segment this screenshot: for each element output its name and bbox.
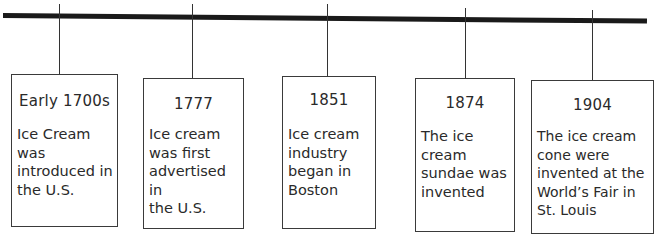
event-year: 1874 [416, 94, 514, 112]
connector-line [465, 8, 466, 78]
event-description: The ice cream sundae was invented [421, 127, 512, 201]
event-year: Early 1700s [12, 92, 117, 110]
timeline-event-box: Early 1700s Ice Cream was introduced in … [11, 74, 118, 227]
timeline-event-box: 1777 Ice cream was first advertised in t… [143, 78, 244, 229]
event-description: Ice Cream was introduced in the U.S. [17, 125, 115, 199]
timeline-event-box: 1851 Ice cream industry began in Boston [282, 76, 376, 229]
timeline-axis [3, 13, 647, 24]
event-description: Ice cream was first advertised in the U.… [149, 125, 241, 218]
timeline-event-box: 1904 The ice cream cone were invented at… [531, 80, 654, 234]
connector-line [327, 4, 328, 76]
event-year: 1904 [532, 96, 653, 114]
connector-line [59, 4, 60, 74]
event-description: Ice cream industry began in Boston [288, 125, 373, 199]
event-description: The ice cream cone were invented at the … [537, 127, 651, 220]
event-year: 1777 [144, 95, 243, 113]
event-year: 1851 [283, 91, 375, 109]
timeline-event-box: 1874 The ice cream sundae was invented [415, 78, 515, 232]
connector-line [592, 10, 593, 80]
connector-line [192, 4, 193, 78]
